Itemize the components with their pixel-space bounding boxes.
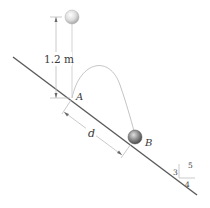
slope-hyp-label: 5 (188, 161, 193, 170)
ball-initial-icon (65, 10, 79, 24)
incline-line (13, 57, 197, 195)
distance-dimension (62, 100, 131, 158)
ball-landing-icon (128, 130, 142, 144)
slope-rise-label: 3 (173, 168, 178, 177)
projectile-incline-diagram: 1.2 m A d B 3 4 5 (0, 0, 210, 208)
distance-label: d (88, 127, 95, 140)
slope-run-label: 4 (185, 180, 190, 189)
point-b-label: B (144, 137, 152, 148)
height-label: 1.2 m (44, 53, 74, 65)
point-a-label: A (75, 91, 83, 102)
